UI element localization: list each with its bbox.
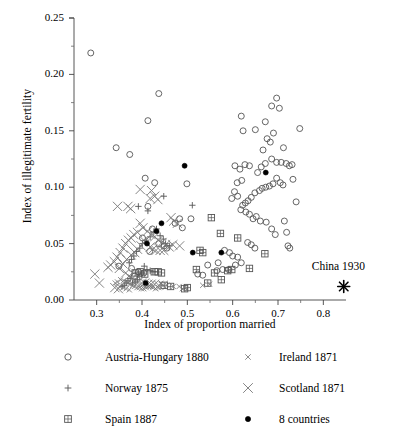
data-point-open-circle	[215, 260, 221, 266]
legend-marker-filled-dot-icon	[235, 406, 261, 432]
data-point-open-circle	[252, 245, 258, 251]
data-point-open-circle	[255, 170, 261, 176]
data-point-open-circle	[263, 219, 269, 225]
y-tick-label: 0.00	[30, 293, 64, 305]
data-point-open-circle	[260, 147, 266, 153]
annotation-marker	[338, 280, 350, 292]
data-point-open-circle	[293, 199, 299, 205]
data-point-open-circle	[276, 105, 282, 111]
data-point-filled-dot	[190, 250, 195, 255]
data-point-square-plus	[65, 416, 72, 423]
data-point-filled-dot	[159, 221, 164, 226]
axis-lines	[74, 18, 346, 300]
data-point-open-circle	[269, 156, 275, 162]
legend-item[interactable]: Norway 1875	[55, 373, 235, 403]
annotation-label: China 1930	[312, 260, 365, 272]
data-point-open-circle	[263, 184, 269, 190]
y-tick-label: 0.15	[30, 124, 64, 136]
legend-item[interactable]: Spain 1887	[55, 404, 235, 434]
data-point-large-x	[126, 204, 135, 213]
x-tick-label: 0.6	[216, 307, 250, 319]
data-point-large-x	[115, 264, 124, 273]
data-point-filled-dot	[245, 416, 250, 421]
data-point-large-x	[153, 195, 162, 204]
data-point-large-x	[118, 259, 127, 268]
legend-marker-open-circle-icon	[55, 344, 81, 370]
data-point-open-circle	[262, 161, 268, 167]
legend-item[interactable]: Scotland 1871	[235, 373, 410, 403]
x-tick-label: 0.7	[261, 307, 295, 319]
data-point-large-x	[118, 244, 127, 253]
data-point-open-circle	[257, 218, 263, 224]
data-point-square-plus	[208, 214, 214, 220]
data-point-open-circle	[274, 95, 280, 101]
data-point-open-circle	[232, 163, 238, 169]
data-point-large-x	[138, 223, 147, 232]
legend-label: Scotland 1871	[261, 382, 345, 394]
data-point-open-circle	[127, 151, 133, 157]
x-tick-label: 0.4	[125, 307, 159, 319]
data-point-open-circle	[290, 176, 296, 182]
data-point-square-plus	[246, 265, 252, 271]
data-point-open-circle	[269, 103, 275, 109]
data-point-open-circle	[281, 218, 287, 224]
y-tick-label: 0.20	[30, 67, 64, 79]
data-point-large-x	[112, 253, 121, 262]
legend-label: Ireland 1871	[261, 351, 337, 363]
x-tick-label: 0.3	[80, 307, 114, 319]
data-point-large-x	[103, 263, 112, 272]
scatter-plot-figure: Index of illegitimate fertility Index of…	[0, 0, 410, 440]
legend-item[interactable]: 8 countries	[235, 404, 410, 434]
data-point-filled-dot	[143, 281, 148, 286]
data-point-open-circle	[272, 232, 278, 238]
data-point-open-circle	[235, 193, 241, 199]
data-point-large-x	[175, 241, 184, 250]
chart-legend: Austria-Hungary 1880Norway 1875Spain 188…	[0, 342, 410, 440]
data-point-small-x	[245, 354, 250, 359]
data-point-square-plus	[217, 230, 223, 236]
x-tick-label: 0.8	[306, 307, 340, 319]
chart-canvas	[0, 0, 410, 340]
data-point-open-circle	[145, 118, 151, 124]
data-point-square-plus	[234, 235, 240, 241]
data-point-large-x	[147, 186, 156, 195]
data-point-plus	[135, 203, 141, 209]
data-point-filled-dot	[154, 229, 159, 234]
data-point-square-plus	[193, 266, 199, 272]
data-point-square-plus	[211, 270, 217, 276]
data-point-open-circle	[258, 164, 264, 170]
data-point-open-circle	[262, 119, 268, 125]
data-point-open-circle	[65, 354, 71, 360]
data-point-large-x	[113, 202, 122, 211]
data-point-open-circle	[252, 127, 258, 133]
data-point-large-x	[95, 278, 104, 287]
legend-item[interactable]: Austria-Hungary 1880	[55, 342, 235, 372]
data-point-open-circle	[88, 50, 94, 56]
data-point-square-plus	[218, 276, 224, 282]
legend-marker-large-x-icon	[235, 375, 261, 401]
data-point-open-circle	[184, 181, 190, 187]
y-tick-label: 0.05	[30, 237, 64, 249]
data-point-large-x	[243, 383, 253, 393]
data-point-large-x	[136, 185, 145, 194]
x-tick-label: 0.5	[170, 307, 204, 319]
data-point-square-plus	[262, 251, 268, 257]
data-point-open-circle	[152, 180, 158, 186]
data-point-filled-dot	[182, 163, 187, 168]
data-point-open-circle	[297, 126, 303, 132]
data-point-open-circle	[156, 91, 162, 97]
legend-label: Norway 1875	[81, 382, 168, 394]
data-point-large-x	[90, 269, 99, 278]
data-point-open-circle	[229, 195, 235, 201]
data-point-plus	[65, 385, 72, 392]
data-point-large-x	[136, 219, 145, 228]
legend-item[interactable]: Ireland 1871	[235, 342, 410, 372]
y-tick-label: 0.10	[30, 180, 64, 192]
data-point-filled-dot	[263, 170, 268, 175]
legend-label: Spain 1887	[81, 413, 157, 425]
data-point-filled-dot	[144, 241, 149, 246]
data-point-open-circle	[238, 260, 244, 266]
data-point-open-circle	[269, 226, 275, 232]
data-point-open-circle	[270, 130, 276, 136]
data-point-plus	[189, 202, 195, 208]
